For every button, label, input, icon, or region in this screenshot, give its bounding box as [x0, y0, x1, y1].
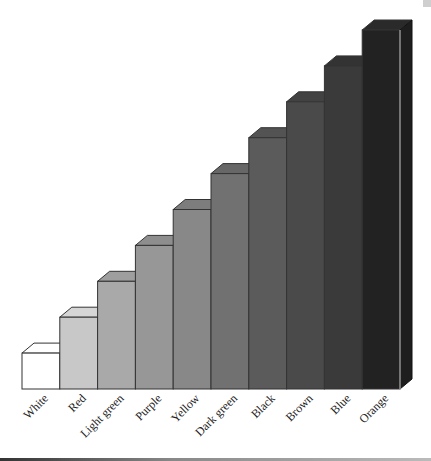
bar-chart: WhiteRedLight greenPurpleYellowDark gree… [0, 0, 431, 461]
x-axis-label: Red [65, 391, 89, 415]
x-axis-label: Blue [327, 391, 353, 417]
x-axis-label: Yellow [168, 391, 202, 425]
bar-side-face [400, 20, 412, 389]
x-axis-label: Purple [132, 391, 164, 423]
x-axis-label: Black [248, 391, 278, 421]
corner-mark [423, 0, 431, 7]
x-axis-label: White [20, 391, 51, 422]
x-axis-label: Brown [283, 391, 316, 424]
x-axis-label: Orange [356, 391, 391, 426]
